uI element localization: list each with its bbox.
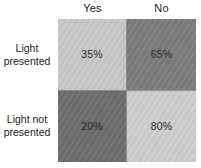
cell-value-miss: 65%	[151, 48, 172, 60]
cell-light-presented-yes: 35%	[58, 19, 127, 91]
row-label-light-presented-line2: presented	[4, 55, 51, 68]
confusion-matrix-figure: Yes No Light presented Light not present…	[0, 0, 201, 168]
cell-value-false-alarm: 20%	[81, 120, 102, 132]
cell-light-presented-no: 65%	[127, 19, 196, 91]
row-label-light-presented-line1: Light	[16, 42, 39, 55]
column-header-no: No	[127, 0, 196, 19]
cell-light-not-presented-no: 80%	[127, 91, 196, 163]
cell-value-correct-rejection: 80%	[151, 120, 172, 132]
cell-light-not-presented-yes: 20%	[58, 91, 127, 163]
column-header-yes: Yes	[58, 0, 127, 19]
row-label-light-not-presented: Light not presented	[0, 91, 56, 163]
row-label-light-presented: Light presented	[0, 19, 56, 91]
row-label-light-not-presented-line1: Light not	[7, 113, 47, 126]
row-label-column: Light presented Light not presented	[0, 19, 56, 162]
column-header-row: Yes No	[58, 0, 196, 19]
row-label-light-not-presented-line2: presented	[4, 126, 51, 139]
matrix-grid: 35% 65% 20% 80%	[58, 19, 196, 162]
cell-value-hit: 35%	[81, 48, 102, 60]
